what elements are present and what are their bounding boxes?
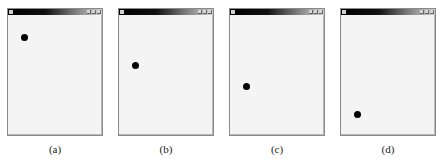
maximize-button[interactable] [314, 10, 318, 14]
ball [21, 34, 28, 41]
panel-a: (a) [7, 0, 117, 159]
panel-caption: (a) [7, 143, 103, 155]
app-window [340, 8, 436, 136]
minimize-button[interactable] [198, 10, 202, 14]
close-button[interactable] [319, 10, 323, 14]
ball [132, 62, 139, 69]
window-controls [198, 10, 212, 14]
close-button[interactable] [208, 10, 212, 14]
ball [243, 83, 250, 90]
maximize-button[interactable] [203, 10, 207, 14]
close-button[interactable] [430, 10, 434, 14]
window-controls [309, 10, 323, 14]
app-icon[interactable] [342, 10, 346, 14]
canvas-area [120, 15, 212, 134]
panel-b: (b) [118, 0, 228, 159]
maximize-button[interactable] [425, 10, 429, 14]
app-window [229, 8, 325, 136]
minimize-button[interactable] [420, 10, 424, 14]
minimize-button[interactable] [309, 10, 313, 14]
app-icon[interactable] [120, 10, 124, 14]
panel-d: (d) [340, 0, 440, 159]
panel-caption: (c) [229, 143, 325, 155]
app-icon[interactable] [9, 10, 13, 14]
panel-caption: (d) [340, 143, 436, 155]
canvas-area [342, 15, 434, 134]
ball [354, 111, 361, 118]
minimize-button[interactable] [87, 10, 91, 14]
window-controls [420, 10, 434, 14]
panel-caption: (b) [118, 143, 214, 155]
app-icon[interactable] [231, 10, 235, 14]
maximize-button[interactable] [92, 10, 96, 14]
close-button[interactable] [97, 10, 101, 14]
app-window [118, 8, 214, 136]
canvas-area [231, 15, 323, 134]
window-controls [87, 10, 101, 14]
canvas-area [9, 15, 101, 134]
panel-c: (c) [229, 0, 339, 159]
app-window [7, 8, 103, 136]
